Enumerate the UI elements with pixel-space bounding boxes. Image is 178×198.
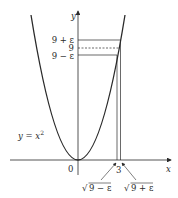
sqrt-nine-plus-epsilon-label: √ 9 + ε (124, 183, 154, 193)
pointer-arrow-left (101, 163, 116, 180)
x-tick-label-three: 3 (116, 165, 121, 175)
curve-label-exponent: 2 (40, 129, 44, 136)
parabola-epsilon-diagram: 9 + ε 9 9 − ε y x 0 3 y = x2 √ 9 − ε √ 9… (0, 0, 178, 198)
curve-label-base: y = x (17, 131, 40, 141)
pointer-arrow-right (122, 163, 136, 180)
origin-label: 0 (68, 164, 73, 174)
radical-sign-right: √ (124, 183, 130, 193)
radicand-left: 9 − ε (89, 183, 112, 193)
radical-sign-left: √ (82, 183, 88, 193)
x-axis-label: x (166, 164, 171, 174)
diagram-canvas: 9 + ε 9 9 − ε y x 0 3 y = x2 √ 9 − ε √ 9… (0, 0, 178, 198)
y-axis-label: y (70, 11, 76, 21)
sqrt-nine-minus-epsilon-label: √ 9 − ε (82, 183, 112, 193)
label-nine-minus-epsilon: 9 − ε (52, 51, 75, 61)
radicand-right: 9 + ε (131, 183, 154, 193)
curve-label: y = x2 (17, 129, 44, 141)
